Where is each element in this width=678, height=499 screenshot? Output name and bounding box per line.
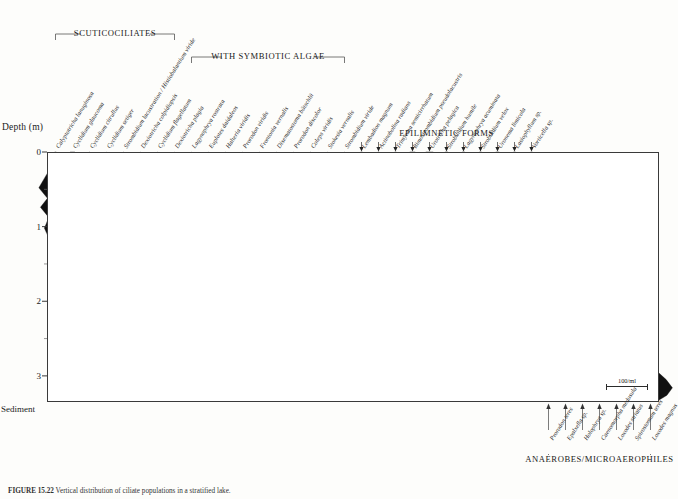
y-tick-3: 3 [15, 371, 41, 381]
caption-number: FIGURE 15.22 [8, 487, 54, 495]
caption-text: Vertical distribution of ciliate populat… [56, 487, 231, 495]
scale-bar-rule [606, 386, 648, 387]
y-tick-2: 2 [15, 296, 41, 306]
y-tick-0: 0 [15, 147, 41, 157]
figure-depth-distribution: Depth (m) 0123 Calyptotricha lanuginosaC… [0, 0, 678, 499]
bracket-anaerobes: ANAEROBES/MICROAEROPHILES [510, 454, 678, 464]
figure-caption: FIGURE 15.22 Vertical distribution of ci… [8, 487, 668, 496]
scale-bar: 100/ml [604, 378, 650, 394]
sediment-label: Sediment [1, 404, 35, 414]
bracket-scuticociliates: SCUTICOCILIATES [25, 28, 205, 38]
scale-bar-label: 100/ml [604, 377, 650, 384]
plot-frame [47, 152, 659, 402]
y-tick-1: 1 [15, 222, 41, 232]
bracket-epilimnetic-forms: EPILIMNETIC FORMS [357, 128, 537, 138]
bracket-symbiotic-algae: WITH SYMBIOTIC ALGAE [178, 51, 358, 61]
